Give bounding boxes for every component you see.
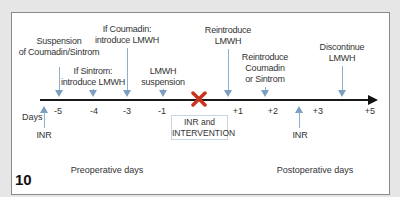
- event-label-line: introduce LMWH: [61, 77, 125, 88]
- event-label-line: Reintroduce: [242, 52, 288, 63]
- event-label-line: introduce LMWH: [95, 35, 159, 46]
- event-reintroduce-coumadin-sintrom: Reintroduce Coumadin or Sintrom: [242, 52, 288, 85]
- event-label-line: suspension: [141, 77, 185, 88]
- preoperative-days-label: Preoperative days: [71, 165, 144, 175]
- down-arrow-icon: [338, 66, 346, 97]
- event-label-line: If Coumadin:: [95, 24, 159, 35]
- event-label-line: LMWH: [320, 53, 365, 64]
- event-label-line: LMWH: [141, 66, 185, 77]
- tick-minus-3: -3: [123, 106, 131, 116]
- intervention-box: INR and INTERVENTION: [171, 115, 228, 140]
- event-label-line: or Sintrom: [242, 74, 288, 85]
- axis-arrowhead-icon: [368, 95, 378, 105]
- event-label-line: Coumadin: [242, 63, 288, 74]
- figure-number: 10: [15, 171, 32, 188]
- inr-label-preop: INR: [37, 130, 52, 141]
- tick-minus-5: -5: [54, 106, 62, 116]
- event-suspension-coumadin-sintrom: Suspension of Coumadin/Sintrom: [19, 36, 100, 58]
- event-label-line: If Sintrom:: [61, 66, 125, 77]
- down-arrow-icon: [123, 48, 131, 97]
- down-arrow-icon: [224, 49, 232, 97]
- event-discontinue-lmwh: Discontinue LMWH: [320, 42, 365, 64]
- intervention-box-line: INR and: [172, 117, 227, 128]
- down-arrow-icon: [261, 87, 269, 97]
- tick-plus-1: +1: [233, 106, 243, 116]
- down-arrow-icon: [159, 89, 167, 97]
- event-label-line: of Coumadin/Sintrom: [19, 47, 100, 58]
- tick-plus-3: +3: [313, 106, 323, 116]
- tick-minus-1: -1: [158, 106, 166, 116]
- down-arrow-icon: [89, 89, 97, 97]
- intervention-x-icon: [191, 91, 207, 107]
- event-lmwh-suspension: LMWH suspension: [141, 66, 185, 88]
- up-arrow-icon: [40, 106, 48, 128]
- event-label-line: Discontinue: [320, 42, 365, 53]
- event-if-coumadin-introduce-lmwh: If Coumadin: introduce LMWH: [95, 24, 159, 46]
- event-label-line: LMWH: [205, 36, 251, 47]
- tick-plus-2: +2: [268, 106, 278, 116]
- event-reintroduce-lmwh: Reintroduce LMWH: [205, 25, 251, 47]
- event-label-line: Reintroduce: [205, 25, 251, 36]
- inr-label-postop: INR: [293, 130, 308, 141]
- postoperative-days-label: Postoperative days: [277, 165, 354, 175]
- up-arrow-icon: [295, 106, 303, 128]
- tick-plus-5: +5: [365, 106, 375, 116]
- tick-minus-4: -4: [90, 106, 98, 116]
- event-label-line: Suspension: [19, 36, 100, 47]
- event-if-sintrom-introduce-lmwh: If Sintrom: introduce LMWH: [61, 66, 125, 88]
- intervention-box-line: INTERVENTION: [172, 128, 227, 139]
